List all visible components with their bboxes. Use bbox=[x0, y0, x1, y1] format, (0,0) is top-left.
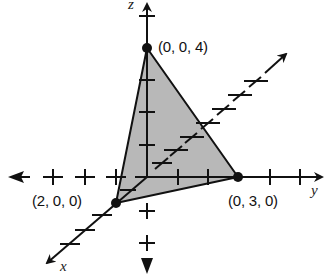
vertex-label-x: (2, 0, 0) bbox=[32, 192, 82, 209]
x-axis bbox=[47, 177, 147, 263]
vertex-label-z: (0, 0, 4) bbox=[158, 38, 208, 55]
y-axis-label: y bbox=[311, 182, 318, 199]
vertex-point-z bbox=[142, 43, 152, 53]
vertex-label-y: (0, 3, 0) bbox=[228, 192, 278, 209]
vertex-point-x bbox=[111, 198, 121, 208]
x-axis-label: x bbox=[60, 258, 67, 275]
z-axis-label: z bbox=[128, 0, 134, 13]
z-axis-down-arrow-icon bbox=[141, 258, 153, 274]
vertex-point-y bbox=[233, 172, 243, 182]
negative-y-axis bbox=[12, 169, 126, 185]
